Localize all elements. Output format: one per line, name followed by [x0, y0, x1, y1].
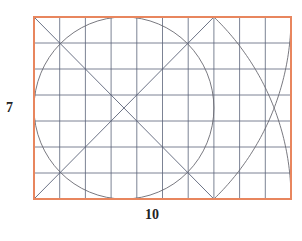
height-label: 7	[6, 100, 13, 116]
unit-grid	[34, 17, 291, 199]
arc-bottom-to-top-right	[214, 17, 291, 199]
arc-top-to-bottom-right	[214, 17, 291, 199]
diagram-canvas	[0, 0, 302, 241]
width-label: 10	[145, 207, 159, 223]
